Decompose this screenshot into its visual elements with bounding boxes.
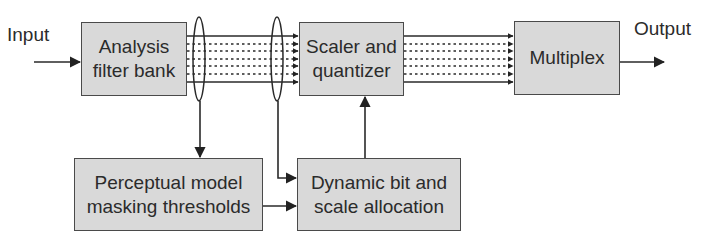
tap-to-dynamic-arrow [278,101,296,178]
dynamic-line1: Dynamic bit and [311,171,447,195]
analysis-line1: Analysis [93,35,175,59]
subband-bus-scaler-to-multiplex [404,36,513,82]
scaler-line1: Scaler and [306,35,397,59]
perceptual-line2: masking thresholds [87,195,251,219]
output-label: Output [634,18,691,40]
analysis-line2: filter bank [93,59,175,83]
input-label: Input [7,24,49,46]
dynamic-bit-allocation-block: Dynamic bit and scale allocation [297,158,461,231]
analysis-filter-bank-block: Analysis filter bank [81,22,187,96]
perceptual-model-block: Perceptual model masking thresholds [74,158,263,231]
subband-bus-analysis-to-scaler [187,36,298,82]
dynamic-line2: scale allocation [311,195,447,219]
multiplex-line1: Multiplex [530,46,605,70]
scaler-quantizer-block: Scaler and quantizer [299,22,404,96]
multiplex-block: Multiplex [514,21,620,95]
perceptual-line1: Perceptual model [87,171,251,195]
scaler-line2: quantizer [306,59,397,83]
